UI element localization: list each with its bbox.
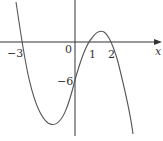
- tick-label-1: 1: [89, 48, 96, 61]
- origin-label: 0: [65, 43, 72, 56]
- x-axis-label: x: [155, 45, 162, 58]
- tick-label-neg6: −6: [57, 75, 73, 88]
- tick-label-neg3: −3: [7, 47, 23, 60]
- tick-label-2: 2: [108, 48, 115, 61]
- function-graph: −3 0 1 2 x −6: [0, 0, 163, 141]
